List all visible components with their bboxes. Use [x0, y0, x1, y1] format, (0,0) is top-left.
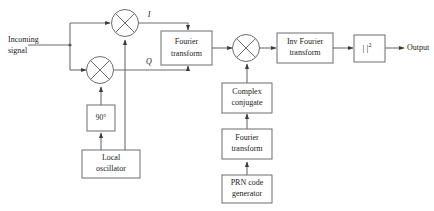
label-incoming-signal-line2: signal — [8, 46, 28, 55]
label-output: Output — [407, 43, 430, 52]
block-inv-fourier-transform-line2: transform — [289, 48, 321, 57]
block-inv-fourier-transform: Inv Fourier transform — [277, 33, 333, 63]
block-fourier-transform-bottom: Fourier transform — [222, 129, 272, 159]
signal-flow-diagram: Fourier transform Inv Fourier transform … — [0, 0, 434, 211]
label-incoming-signal-line1: Incoming — [8, 35, 39, 44]
junction-input-split — [68, 43, 71, 46]
block-phase-shift-90: 90° — [87, 105, 115, 131]
mixer-inphase — [112, 10, 139, 37]
block-fourier-transform-bottom-line1: Fourier — [235, 133, 259, 142]
block-prn-code-generator-line1: PRN code — [231, 178, 264, 187]
label-inphase-signal: I — [147, 10, 151, 19]
block-magnitude-squared: | |2 — [354, 35, 385, 62]
mixer-correlate — [233, 35, 260, 62]
block-fourier-transform-top-line1: Fourier — [175, 37, 199, 46]
block-local-oscillator-line1: Local — [102, 153, 121, 162]
wire-inphase-to-fourier — [138, 23, 188, 30]
block-diagram-page: Fourier transform Inv Fourier transform … — [0, 0, 434, 211]
block-prn-code-generator: PRN code generator — [222, 175, 272, 203]
block-local-oscillator-line2: oscillator — [96, 164, 126, 173]
block-inv-fourier-transform-line1: Inv Fourier — [287, 37, 324, 46]
block-complex-conjugate-line1: Complex — [232, 87, 261, 96]
block-complex-conjugate-line2: conjugate — [231, 98, 263, 107]
block-fourier-transform-top: Fourier transform — [161, 31, 212, 65]
block-fourier-transform-bottom-line2: transform — [231, 144, 263, 153]
block-complex-conjugate: Complex conjugate — [222, 83, 272, 113]
block-magnitude-squared-exponent: 2 — [368, 42, 371, 48]
block-fourier-transform-top-line2: transform — [171, 49, 203, 58]
block-prn-code-generator-line2: generator — [232, 189, 263, 198]
block-phase-shift-90-label: 90° — [96, 113, 107, 122]
block-local-oscillator: Local oscillator — [82, 150, 140, 178]
label-quadrature-signal: Q — [146, 57, 152, 66]
mixer-quadrature — [87, 57, 114, 84]
